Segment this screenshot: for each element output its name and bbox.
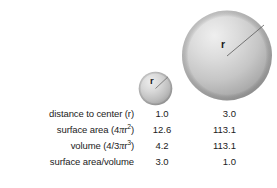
properties-table: distance to center (r) 1.0 3.0 surface a…	[0, 108, 277, 172]
row-value-large-sa-over-volume: 1.0	[184, 156, 272, 167]
row-value-small-surface-area: 12.6	[134, 124, 184, 135]
row-label-volume-pre: volume (4/3	[71, 140, 120, 151]
table-row: surface area/volume 3.0 1.0	[0, 156, 277, 172]
table-row: distance to center (r) 1.0 3.0	[0, 108, 277, 124]
table-row: volume (4/3πr3) 4.2 113.1	[0, 140, 277, 156]
row-value-small-distance-to-center: 1.0	[134, 108, 184, 119]
row-value-small-sa-over-volume: 3.0	[134, 156, 184, 167]
large-sphere-radius-label: r	[221, 38, 225, 50]
row-value-large-surface-area: 113.1	[184, 124, 272, 135]
row-label-surface-area: surface area (4πr2)	[0, 124, 134, 135]
large-sphere: r	[182, 11, 272, 101]
row-label-surface-area-over-volume: surface area/volume	[0, 156, 134, 167]
row-label-distance-to-center: distance to center (r)	[0, 108, 134, 119]
row-label-volume: volume (4/3πr3)	[0, 140, 134, 151]
row-value-large-volume: 113.1	[184, 140, 272, 151]
row-label-surface-area-pre: surface area (4	[57, 124, 119, 135]
small-sphere-radius-label: r	[150, 75, 154, 86]
row-value-large-distance-to-center: 3.0	[184, 108, 272, 119]
table-row: surface area (4πr2) 12.6 113.1	[0, 124, 277, 140]
small-sphere: r	[139, 72, 173, 106]
sphere-surface-volume-figure: r r distance to center (r) 1.0 3.0 surfa…	[0, 0, 277, 188]
row-value-small-volume: 4.2	[134, 140, 184, 151]
